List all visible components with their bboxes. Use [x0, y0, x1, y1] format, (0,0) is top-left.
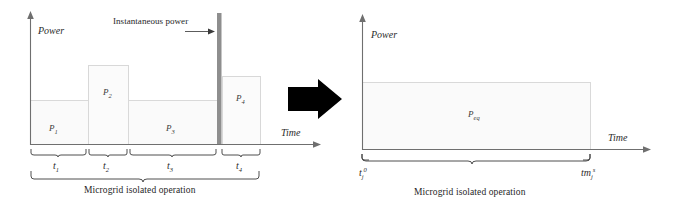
- bar-label-p-eq: Peq: [468, 110, 480, 121]
- right-y-axis-label: Power: [371, 30, 397, 40]
- end-time-base: tm: [581, 167, 591, 178]
- end-time-sub: j: [591, 173, 593, 180]
- start-time-sup: 0: [364, 166, 367, 173]
- right-x-axis-arrowhead: [643, 146, 651, 153]
- brace-microgrid-isolated-operation-right: [362, 154, 590, 164]
- start-time-label: tj0: [359, 167, 367, 181]
- right-y-axis-arrowhead: [359, 14, 366, 22]
- bar-label-p-eq-sub: eq: [474, 114, 480, 121]
- end-time-sup: s: [593, 166, 596, 173]
- end-time-label: tmjs: [581, 167, 595, 181]
- figure-canvas: Power Time Instantaneous power P1 P2 P3 …: [0, 0, 673, 211]
- right-caption: Microgrid isolated operation: [414, 188, 526, 198]
- right-chart-graphics: [0, 0, 673, 211]
- right-x-axis-label: Time: [608, 133, 627, 143]
- start-time-sub: j: [362, 173, 364, 180]
- brace-end-time: [583, 154, 590, 160]
- brace-start-time: [362, 154, 369, 160]
